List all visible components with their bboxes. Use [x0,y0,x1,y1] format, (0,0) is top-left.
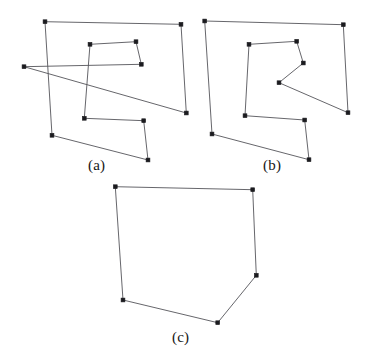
polygon-a-outline [24,22,186,160]
figure-panel-c [113,185,258,325]
polygon-a-vertices [22,20,188,162]
polygon-vertex [303,118,307,122]
polygon-vertex [247,42,251,46]
polygon-vertex [346,111,350,115]
figure-panel-a [22,20,188,162]
caption-c: (c) [172,330,189,345]
polygon-vertex [243,114,247,118]
polygon-vertex [43,20,47,24]
polygon-vertex [251,188,255,192]
polygon-vertex [88,42,92,46]
polygon-vertex [301,61,305,65]
polygon-vertex [121,298,125,302]
polygon-vertex [203,19,207,23]
polygon-vertex [142,119,146,123]
caption-b: (b) [263,158,281,173]
polygon-b-outline [205,21,348,160]
polygon-vertex [295,39,299,43]
polygon-b-vertices [203,19,350,162]
polygon-c-vertices [113,185,258,325]
polygon-canvas [0,0,367,357]
polygon-vertex [184,111,188,115]
polygon-vertex [113,185,117,189]
polygon-vertex [254,273,258,277]
polygon-c-outline [115,187,256,323]
polygon-vertex [210,132,214,136]
polygon-vertex [146,158,150,162]
polygon-vertex [216,321,220,325]
polygon-vertex [134,40,138,44]
polygon-vertex [307,158,311,162]
figure-board: (a) (b) (c) [0,0,367,357]
polygon-vertex [341,23,345,27]
polygon-vertex [22,65,26,69]
polygon-vertex [82,116,86,120]
polygon-vertex [139,62,143,66]
caption-a: (a) [88,158,105,173]
figure-panel-b [203,19,350,162]
polygon-vertex [277,81,281,85]
polygon-vertex [50,133,54,137]
polygon-vertex [179,22,183,26]
